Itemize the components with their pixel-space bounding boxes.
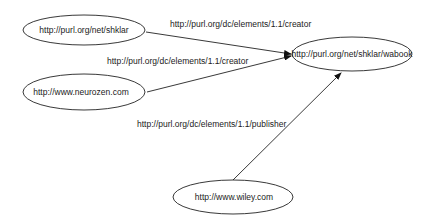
edge-neurozen-creator: http://purl.org/dc/elements/1.1/creator: [107, 56, 291, 92]
edge-wiley-publisher: http://purl.org/dc/elements/1.1/publishe…: [137, 73, 341, 180]
node-label: http://www.neurozen.com: [33, 87, 128, 97]
node-wabook: http://purl.org/net/shklar/wabook: [292, 37, 414, 71]
edge-line: [146, 32, 291, 54]
node-label: http://www.wiley.com: [195, 192, 273, 202]
node-shklar: http://purl.org/net/shklar: [23, 15, 145, 45]
node-wiley: http://www.wiley.com: [173, 180, 293, 214]
node-neurozen: http://www.neurozen.com: [23, 74, 145, 110]
node-label: http://purl.org/net/shklar/wabook: [292, 49, 414, 59]
edge-label: http://purl.org/dc/elements/1.1/creator: [170, 19, 311, 29]
edge-label: http://purl.org/dc/elements/1.1/publishe…: [137, 119, 286, 129]
edge-label: http://purl.org/dc/elements/1.1/creator: [107, 56, 248, 66]
node-label: http://purl.org/net/shklar: [39, 25, 128, 35]
diagram-canvas: http://purl.org/dc/elements/1.1/creator …: [0, 0, 431, 224]
rdf-diagram: http://purl.org/dc/elements/1.1/creator …: [0, 0, 431, 224]
edge-shklar-creator: http://purl.org/dc/elements/1.1/creator: [146, 19, 311, 54]
